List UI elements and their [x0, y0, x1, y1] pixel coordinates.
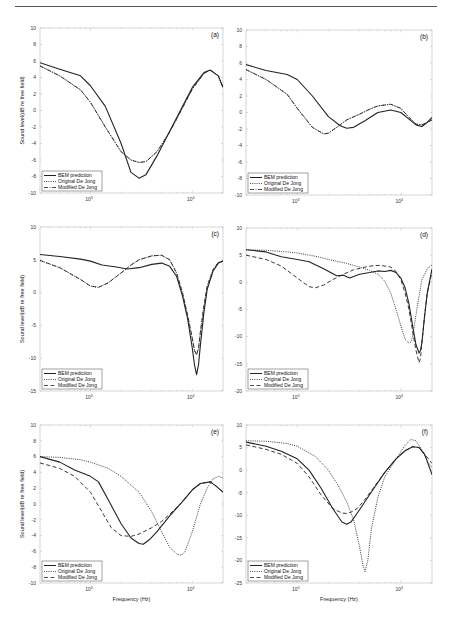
series-line-modified-de-jong — [40, 66, 223, 163]
y-tick-label: -10 — [29, 190, 36, 196]
chart-panel-c: 1050-5-10-15103104Sound level(dB re free… — [19, 224, 223, 400]
y-tick-label: -10 — [235, 512, 242, 518]
legend-entry: Modified De Jong — [58, 382, 97, 388]
y-tick-label: 0 — [33, 107, 36, 113]
x-tick-label: 103 — [85, 394, 93, 401]
y-tick-label: 2 — [33, 91, 36, 97]
chart-panel-e: 1086420-2-4-6-8-10103104Sound level(dB r… — [19, 422, 223, 602]
legend: BEM predictionOriginal De JongModified D… — [42, 369, 102, 389]
y-tick-label: 8 — [239, 43, 242, 49]
series-line-modified-de-jong — [40, 255, 223, 355]
x-tick-label: 104 — [187, 196, 195, 203]
y-axis-label: Sound level(dB re free field) — [19, 76, 25, 144]
axes-box — [40, 28, 223, 193]
series-line-modified-de-jong — [246, 445, 432, 514]
series-line-modified-de-jong — [246, 255, 432, 363]
y-tick-label: -6 — [32, 548, 37, 554]
y-tick-label: -5 — [238, 306, 243, 312]
legend-entry: Modified De Jong — [264, 382, 303, 388]
y-tick-label: -6 — [238, 159, 243, 165]
y-tick-label: 10 — [30, 224, 36, 230]
y-tick-label: -15 — [29, 388, 36, 394]
y-tick-label: 0 — [239, 109, 242, 115]
y-tick-label: 5 — [33, 257, 36, 263]
panel-label: (e) — [211, 428, 219, 436]
panel-label: (b) — [420, 33, 428, 41]
legend: BEM predictionOriginal De JongModified D… — [42, 171, 102, 191]
series-line-original-de-jong — [40, 457, 223, 556]
y-tick-label: 4 — [33, 74, 36, 80]
chart-panel-a: 1086420-2-4-6-8-10103104Sound level(dB r… — [19, 25, 223, 202]
x-tick-label: 103 — [292, 198, 300, 205]
y-axis-label: Sound level(dB re free field) — [19, 275, 25, 343]
y-tick-label: -5 — [32, 322, 37, 328]
axes-box — [246, 228, 432, 391]
y-axis-label: Sound level(dB re free field) — [19, 470, 25, 538]
legend-entry: Modified De Jong — [264, 186, 303, 192]
x-tick-label: 104 — [396, 586, 404, 593]
y-tick-label: -25 — [235, 580, 242, 586]
y-tick-label: 8 — [33, 438, 36, 444]
series-line-bem-prediction — [40, 63, 223, 178]
series-line-original-de-jong — [40, 255, 223, 355]
series-line-bem-prediction — [246, 250, 432, 353]
x-tick-label: 103 — [292, 394, 300, 401]
y-tick-label: -5 — [238, 490, 243, 496]
y-tick-label: 0 — [33, 289, 36, 295]
x-axis-label: Frequency (Hz) — [113, 596, 151, 602]
legend-entry: Modified De Jong — [58, 574, 97, 580]
series-line-original-de-jong — [246, 250, 432, 343]
y-tick-label: 2 — [33, 485, 36, 491]
axes-box — [40, 227, 223, 391]
y-tick-label: 8 — [33, 41, 36, 47]
chart-panel-f: 1050-5-10-15-20-25103104Frequency (Hz)(f… — [235, 422, 432, 602]
y-tick-label: -6 — [32, 157, 37, 163]
y-tick-label: -15 — [235, 535, 242, 541]
y-tick-label: 0 — [239, 279, 242, 285]
y-tick-label: 4 — [33, 469, 36, 475]
y-tick-label: 10 — [236, 225, 242, 231]
legend-entry: Modified De Jong — [58, 184, 97, 190]
y-tick-label: -10 — [235, 192, 242, 198]
x-tick-label: 103 — [85, 586, 93, 593]
panel-label: (a) — [211, 31, 219, 39]
y-tick-label: -15 — [235, 361, 242, 367]
legend: BEM predictionOriginal De JongModified D… — [248, 369, 308, 389]
y-tick-label: -20 — [235, 388, 242, 394]
y-tick-label: -4 — [32, 140, 37, 146]
y-tick-label: 10 — [30, 25, 36, 31]
y-tick-label: -10 — [29, 580, 36, 586]
figure-six-panel-chart: 1086420-2-4-6-8-10103104Sound level(dB r… — [0, 0, 453, 619]
y-tick-label: -4 — [238, 142, 243, 148]
y-tick-label: -2 — [32, 124, 37, 130]
y-tick-label: -10 — [235, 333, 242, 339]
y-tick-label: 0 — [239, 467, 242, 473]
chart-panel-d: 1050-5-10-15-20103104(d)BEM predictionOr… — [235, 225, 432, 400]
series-line-original-de-jong — [40, 66, 223, 163]
y-tick-label: 10 — [236, 27, 242, 33]
y-tick-label: 0 — [33, 501, 36, 507]
x-tick-label: 103 — [85, 196, 93, 203]
y-tick-label: 10 — [236, 422, 242, 428]
legend: BEM predictionOriginal De JongModified D… — [248, 561, 308, 581]
y-tick-label: 4 — [239, 76, 242, 82]
y-tick-label: -4 — [32, 532, 37, 538]
panel-label: (c) — [211, 230, 219, 238]
series-line-bem-prediction — [246, 65, 432, 129]
y-tick-label: 5 — [239, 252, 242, 258]
y-tick-label: -8 — [238, 175, 243, 181]
x-tick-label: 104 — [396, 198, 404, 205]
series-line-original-de-jong — [246, 439, 432, 571]
panel-label: (f) — [422, 428, 428, 436]
x-tick-label: 104 — [396, 394, 404, 401]
y-tick-label: 6 — [33, 58, 36, 64]
y-tick-label: -2 — [238, 126, 243, 132]
y-tick-label: -8 — [32, 173, 37, 179]
y-tick-label: 2 — [239, 93, 242, 99]
y-tick-label: -10 — [29, 355, 36, 361]
y-tick-label: 10 — [30, 422, 36, 428]
y-tick-label: 6 — [33, 453, 36, 459]
legend: BEM predictionOriginal De JongModified D… — [42, 561, 102, 581]
axes-box — [40, 425, 223, 583]
series-line-bem-prediction — [40, 457, 223, 545]
